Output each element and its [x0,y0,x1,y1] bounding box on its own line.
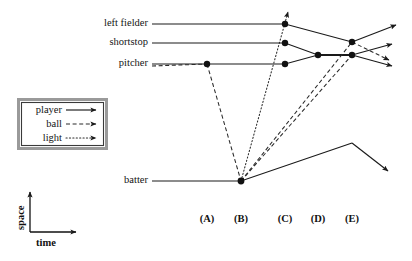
ball-pitch [207,64,241,181]
legend-label-light: light [24,133,62,144]
time-tick-b: (B) [221,214,261,225]
node-left-fielder-sees [282,21,288,27]
worldline-label-batter: batter [40,175,148,186]
worldline-left-fielder [152,24,352,42]
worldline-fielder-exit-upper [352,44,392,55]
light-ray-from-hit [241,12,288,181]
light-rays [241,12,288,181]
node-batter-hit [238,178,245,185]
worldline-shortstop [152,43,318,55]
worldline-batter-exit [352,143,388,171]
event-nodes [204,21,355,185]
node-shortstop-sees [282,40,288,46]
ball-trajectories [152,42,389,181]
node-pitcher-release [204,61,210,67]
worldline-pitcher [152,55,318,64]
spacetime-diagram: left fielder shortstop pitcher batter pl… [0,0,412,261]
legend-label-ball: ball [24,119,62,130]
worldline-label-pitcher: pitcher [40,58,148,69]
axis-label-space: space [16,206,27,231]
time-tick-e: (E) [332,214,372,225]
player-worldlines [152,24,396,181]
node-pitcher-sees [282,61,288,67]
node-fielders-converge [349,52,355,58]
worldline-label-shortstop: shortstop [40,37,148,48]
legend-label-player: player [24,105,62,116]
worldline-left-fielder-exit [352,25,396,42]
ball-fly [241,42,352,181]
axes [30,192,76,232]
ball-throw [352,42,389,60]
worldline-label-left-fielder: left fielder [40,18,148,29]
axis-label-time: time [36,238,56,249]
worldline-fielder-exit-lower [352,55,392,66]
node-left-fielder-catch [349,39,355,45]
worldline-batter [152,143,352,181]
node-shortstop-pitcher-meet [315,52,321,58]
